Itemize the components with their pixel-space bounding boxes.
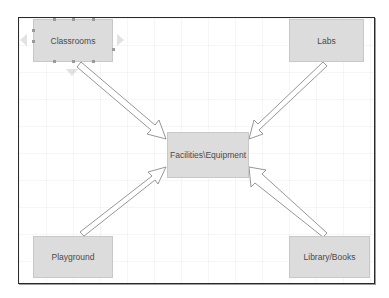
selection-handle[interactable] xyxy=(53,60,56,63)
selection-handle[interactable] xyxy=(53,18,56,21)
selection-handle[interactable] xyxy=(32,29,35,32)
node-label: Playground xyxy=(51,252,94,262)
node-playground[interactable]: Playground xyxy=(33,236,113,278)
node-label: Labs xyxy=(317,36,335,46)
arrow-playground-to-facilities[interactable] xyxy=(80,167,166,236)
node-labs[interactable]: Labs xyxy=(289,19,364,62)
node-facilities-equipment[interactable]: Facilities\Equipment xyxy=(167,132,249,178)
arrow-classrooms-to-facilities[interactable] xyxy=(77,62,166,139)
selection-handle[interactable] xyxy=(92,60,95,63)
selection-handle[interactable] xyxy=(72,60,75,63)
diagram-canvas[interactable]: Classrooms Labs Facilities\Equipment Pla… xyxy=(0,0,389,298)
node-label: Facilities\Equipment xyxy=(170,150,246,160)
arrow-library-to-facilities[interactable] xyxy=(249,167,327,237)
node-label: Library/Books xyxy=(304,252,356,262)
node-label: Classrooms xyxy=(51,36,96,46)
selection-handle[interactable] xyxy=(32,40,35,43)
node-classrooms[interactable]: Classrooms xyxy=(33,19,113,62)
node-library-books[interactable]: Library/Books xyxy=(289,236,370,278)
selection-handle[interactable] xyxy=(92,18,95,21)
selection-handle[interactable] xyxy=(112,48,115,51)
selection-handle[interactable] xyxy=(72,18,75,21)
arrow-labs-to-facilities[interactable] xyxy=(249,62,327,139)
